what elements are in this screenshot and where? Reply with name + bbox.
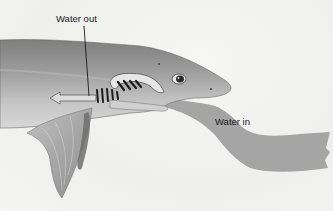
water-in-label: Water in: [215, 116, 250, 127]
eye-icon: [172, 74, 186, 84]
spiracle: [158, 63, 160, 65]
shark-gill-diagram: Water out Water in: [0, 0, 333, 211]
nostril: [210, 88, 212, 90]
shark-illustration: [0, 0, 333, 211]
water-out-label: Water out: [56, 13, 97, 24]
water-in-stream: [150, 96, 330, 172]
